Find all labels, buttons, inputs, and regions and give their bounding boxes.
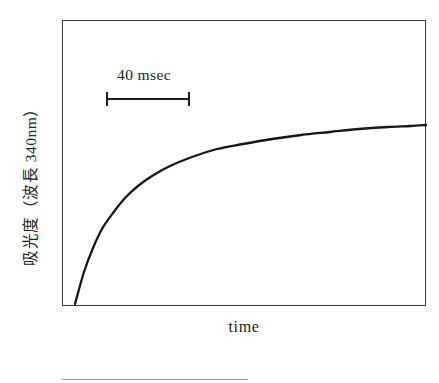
absorbance-curve-svg xyxy=(62,20,426,306)
next-figure-top-edge xyxy=(62,379,248,380)
y-axis-label: 吸光度（波長 340nm） xyxy=(14,58,44,308)
absorbance-curve xyxy=(75,125,426,304)
scale-bar-label: 40 msec xyxy=(94,66,194,84)
curve-layer xyxy=(62,20,426,306)
scale-bar-line xyxy=(106,98,190,100)
scale-bar-cap-left xyxy=(106,92,108,106)
scale-bar-cap-right xyxy=(188,92,190,106)
x-axis-label: time xyxy=(62,318,426,336)
scale-bar xyxy=(106,92,190,106)
figure-root: 吸光度（波長 340nm） time 40 msec xyxy=(0,0,439,383)
